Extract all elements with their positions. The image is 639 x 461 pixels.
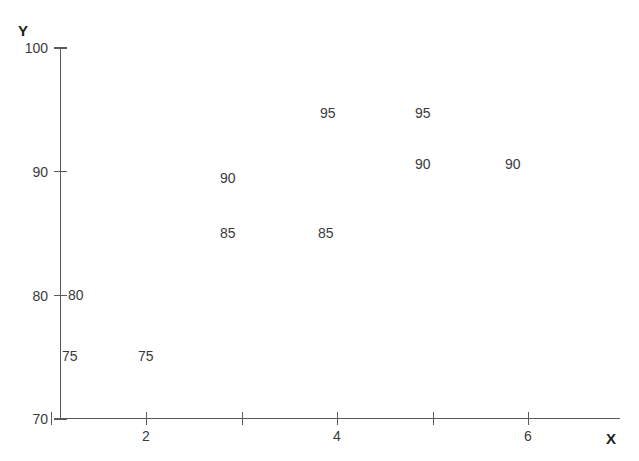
x-tick-label: 6 <box>508 428 548 444</box>
data-point-label: 90 <box>505 156 521 172</box>
x-tick-mark <box>51 412 52 425</box>
scatter-plot: Y X 100 90 80 70 2 4 6 80 75 75 90 85 95… <box>0 0 639 461</box>
y-tick-label: 100 <box>4 40 48 56</box>
data-point-label: 90 <box>220 170 236 186</box>
x-tick-mark <box>528 412 529 425</box>
data-point-label: 85 <box>318 225 334 241</box>
y-tick-label: 90 <box>4 164 48 180</box>
x-tick-label: 2 <box>126 428 166 444</box>
data-point-label: 95 <box>320 105 336 121</box>
data-point-label: 90 <box>415 156 431 172</box>
x-tick-mark <box>146 412 147 425</box>
y-tick-label: 70 <box>4 411 48 427</box>
data-point-label: 80 <box>68 287 84 303</box>
x-tick-mark <box>337 412 338 425</box>
y-tick-mark <box>54 47 67 48</box>
data-point-label: 85 <box>220 225 236 241</box>
data-point-label: 75 <box>138 348 154 364</box>
x-tick-mark <box>242 412 243 425</box>
y-axis-title: Y <box>18 22 28 39</box>
data-point-label: 75 <box>62 348 78 364</box>
y-tick-label: 80 <box>4 288 48 304</box>
y-tick-mark <box>54 295 67 296</box>
data-point-label: 95 <box>415 105 431 121</box>
y-tick-mark <box>54 171 67 172</box>
x-tick-mark <box>433 412 434 425</box>
y-tick-mark <box>54 418 67 419</box>
x-axis-line <box>60 418 620 419</box>
x-tick-label: 4 <box>317 428 357 444</box>
x-axis-title: X <box>606 430 616 447</box>
